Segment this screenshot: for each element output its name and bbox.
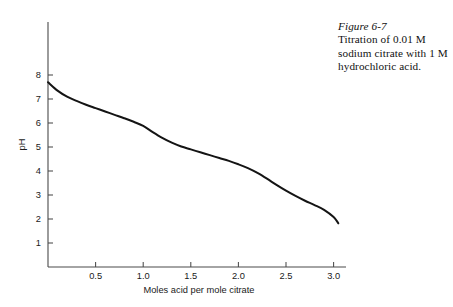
y-tick-label: 4 bbox=[36, 166, 41, 176]
x-tick-label: 3.0 bbox=[327, 271, 340, 281]
x-axis-ticks: 0.51.01.52.02.53.0 bbox=[89, 262, 340, 281]
x-tick-label: 1.5 bbox=[184, 271, 197, 281]
titration-curve bbox=[48, 82, 338, 223]
data-series-group bbox=[48, 82, 338, 223]
x-tick-label: 1.0 bbox=[137, 271, 150, 281]
figure-caption-text: Titration of 0.01 M sodium citrate with … bbox=[338, 33, 450, 73]
y-tick-label: 5 bbox=[36, 142, 41, 152]
axes-group: 12345678 0.51.01.52.02.53.0 bbox=[36, 22, 346, 281]
y-tick-label: 6 bbox=[36, 118, 41, 128]
x-axis-title: Moles acid per mole citrate bbox=[143, 285, 254, 295]
figure-container: 12345678 0.51.01.52.02.53.0 pH Moles aci… bbox=[0, 0, 453, 307]
y-tick-label: 2 bbox=[36, 214, 41, 224]
y-tick-label: 8 bbox=[36, 70, 41, 80]
x-tick-label: 2.5 bbox=[280, 271, 293, 281]
y-tick-label: 3 bbox=[36, 190, 41, 200]
y-axis-ticks: 12345678 bbox=[36, 70, 53, 248]
y-tick-label: 1 bbox=[36, 238, 41, 248]
x-tick-label: 0.5 bbox=[89, 271, 102, 281]
y-tick-label: 7 bbox=[36, 94, 41, 104]
figure-caption: Figure 6-7 Titration of 0.01 M sodium ci… bbox=[338, 20, 450, 74]
y-axis-title: pH bbox=[17, 139, 27, 151]
x-tick-label: 2.0 bbox=[232, 271, 245, 281]
figure-caption-number: Figure 6-7 bbox=[338, 20, 450, 33]
